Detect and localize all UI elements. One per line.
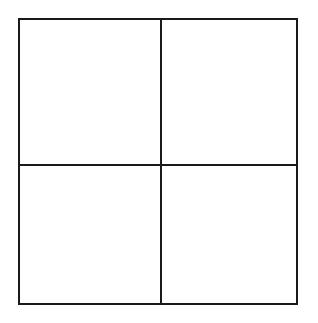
vertical-divider [160, 20, 162, 303]
grid-cell-bottom-left [20, 166, 160, 303]
grid-cell-bottom-right [162, 166, 296, 303]
diagram-canvas [0, 0, 318, 323]
grid-cell-top-right [162, 20, 296, 164]
grid-cell-top-left [20, 20, 160, 164]
horizontal-divider [20, 164, 296, 166]
grid-outer-border [18, 18, 298, 305]
